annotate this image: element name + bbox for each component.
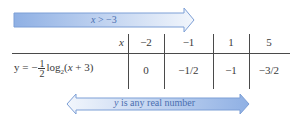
column-divider <box>128 34 129 89</box>
y-value: −1/2 <box>164 64 213 76</box>
column-divider <box>249 34 250 89</box>
column-divider <box>164 34 165 89</box>
domain-label: x > −3 <box>91 14 117 25</box>
x-value: −2 <box>128 36 164 48</box>
x-value: −1 <box>164 36 213 48</box>
x-value: 1 <box>213 36 249 48</box>
range-label: y is any real number <box>114 97 195 108</box>
y-value: 0 <box>128 64 164 76</box>
y-value: −1 <box>213 64 249 76</box>
function-label: y = −12log2(x + 3) <box>14 59 93 78</box>
domain-arrow: x > −3 <box>13 7 196 33</box>
x-header-label: x <box>100 36 124 48</box>
x-value: 5 <box>249 36 289 48</box>
column-divider <box>213 34 214 89</box>
range-arrow: y is any real number <box>66 93 250 115</box>
y-value: −3/2 <box>249 64 289 76</box>
